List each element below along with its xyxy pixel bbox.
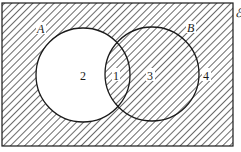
region-1-label: 1: [113, 69, 119, 83]
set-b-label: B: [187, 21, 195, 35]
venn-diagram: ℰ A B 2 1 3 4: [0, 0, 241, 152]
region-2-label: 2: [80, 69, 86, 83]
region-4-label: 4: [203, 69, 209, 83]
set-a-label: A: [36, 22, 45, 36]
region-3-label: 3: [147, 69, 153, 83]
universal-set-label: ℰ: [235, 6, 241, 20]
